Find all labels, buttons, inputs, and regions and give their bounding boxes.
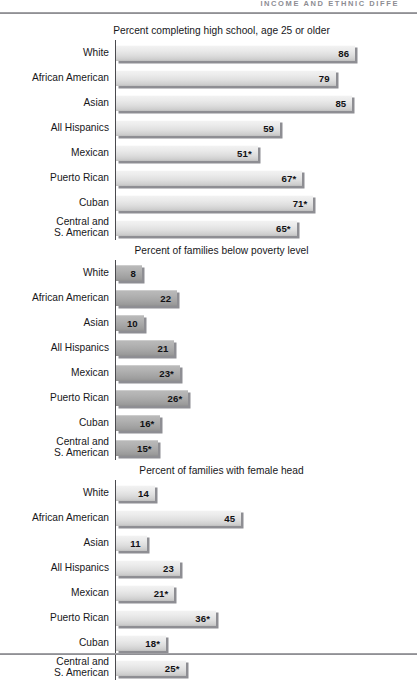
category-label: Puerto Rican: [0, 612, 109, 624]
category-label: All Hispanics: [0, 342, 109, 354]
chart-row: Puerto Rican67*: [116, 165, 417, 190]
chart-row: Central and S. American15*: [116, 435, 417, 460]
bar-value-label: 14: [138, 488, 149, 499]
bar-value-label: 11: [130, 538, 140, 549]
bar: 51*: [116, 145, 258, 161]
bar-chart: Percent of families with female headWhit…: [0, 462, 417, 680]
bar: 14: [116, 485, 155, 501]
bar-value-label: 8: [131, 268, 136, 279]
bar-wrapper: 21*: [116, 585, 174, 601]
chart-row: All Hispanics21: [116, 335, 417, 360]
chart-row: White8: [116, 260, 417, 285]
category-label: Puerto Rican: [0, 172, 109, 184]
chart-row: White86: [116, 40, 417, 65]
bar-value-label: 85: [335, 98, 346, 109]
bar: 21*: [116, 585, 174, 601]
chart-stack: Percent completing high school, age 25 o…: [0, 22, 417, 680]
bar-value-label: 45: [224, 513, 235, 524]
bar-wrapper: 11: [116, 535, 147, 551]
bar-wrapper: 23: [116, 560, 180, 576]
bar-value-label: 18*: [145, 638, 160, 649]
category-label: African American: [0, 72, 109, 84]
bar-wrapper: 14: [116, 485, 155, 501]
bar-value-label: 71*: [293, 198, 308, 209]
chart-row: Central and S. American65*: [116, 215, 417, 240]
chart-row: White14: [116, 480, 417, 505]
bar-wrapper: 25*: [116, 660, 186, 676]
bar-wrapper: 79: [116, 70, 336, 86]
category-label: White: [0, 487, 109, 499]
category-label: Mexican: [0, 147, 109, 159]
chart-row: African American45: [116, 505, 417, 530]
top-rule: [0, 12, 417, 14]
chart-row: African American22: [116, 285, 417, 310]
bar: 45: [116, 510, 241, 526]
category-label: White: [0, 47, 109, 59]
bar-wrapper: 51*: [116, 145, 258, 161]
bar: 8: [116, 265, 142, 281]
category-label: Puerto Rican: [0, 392, 109, 404]
bar: 71*: [116, 195, 313, 211]
chart-row: Asian11: [116, 530, 417, 555]
category-label: Mexican: [0, 367, 109, 379]
chart-row: Mexican51*: [116, 140, 417, 165]
bar-wrapper: 18*: [116, 635, 166, 651]
plot-area: White14African American45Asian11All Hisp…: [0, 480, 417, 680]
category-label: African American: [0, 292, 109, 304]
bar-value-label: 15*: [137, 443, 152, 454]
bar: 15*: [116, 440, 158, 456]
bar-value-label: 67*: [282, 173, 297, 184]
category-label: Central and S. American: [0, 436, 109, 459]
bar-value-label: 23*: [159, 368, 174, 379]
category-label: Cuban: [0, 637, 109, 649]
bar-wrapper: 23*: [116, 365, 180, 381]
bar: 67*: [116, 170, 302, 186]
running-head: INCOME AND ETHNIC DIFFE: [260, 0, 399, 8]
bar-wrapper: 59: [116, 120, 280, 136]
bar: 79: [116, 70, 336, 86]
bar-wrapper: 8: [116, 265, 142, 281]
chart-title: Percent of families below poverty level: [26, 242, 417, 260]
chart-row: Cuban16*: [116, 410, 417, 435]
category-label: Cuban: [0, 197, 109, 209]
bar-value-label: 23: [163, 563, 174, 574]
category-label: Asian: [0, 317, 109, 329]
bar: 11: [116, 535, 147, 551]
bar: 86: [116, 45, 355, 61]
bar-wrapper: 22: [116, 290, 177, 306]
bar-value-label: 16*: [140, 418, 155, 429]
chart-row: All Hispanics23: [116, 555, 417, 580]
bar: 36*: [116, 610, 216, 626]
bar-wrapper: 45: [116, 510, 241, 526]
bar-value-label: 36*: [195, 613, 210, 624]
bar-wrapper: 85: [116, 95, 352, 111]
chart-row: Asian10: [116, 310, 417, 335]
bar-chart: Percent of families below poverty levelW…: [0, 242, 417, 460]
bar-wrapper: 65*: [116, 220, 297, 236]
chart-title: Percent of families with female head: [26, 462, 417, 480]
bar: 85: [116, 95, 352, 111]
category-label: African American: [0, 512, 109, 524]
bar-wrapper: 21: [116, 340, 174, 356]
bar-wrapper: 71*: [116, 195, 313, 211]
bar: 26*: [116, 390, 188, 406]
bar-value-label: 25*: [165, 663, 180, 674]
category-label: All Hispanics: [0, 122, 109, 134]
bottom-rule: [0, 653, 417, 655]
bar-wrapper: 10: [116, 315, 144, 331]
bar: 21: [116, 340, 174, 356]
bar-value-label: 10: [127, 318, 138, 329]
category-label: Central and S. American: [0, 216, 109, 239]
chart-row: Puerto Rican26*: [116, 385, 417, 410]
chart-row: Cuban18*: [116, 630, 417, 655]
plot-area: White8African American22Asian10All Hispa…: [0, 260, 417, 460]
bar-wrapper: 15*: [116, 440, 158, 456]
category-label: White: [0, 267, 109, 279]
bar-value-label: 79: [319, 73, 330, 84]
chart-row: All Hispanics59: [116, 115, 417, 140]
chart-row: Asian85: [116, 90, 417, 115]
bar: 18*: [116, 635, 166, 651]
bar: 23*: [116, 365, 180, 381]
bar: 23: [116, 560, 180, 576]
